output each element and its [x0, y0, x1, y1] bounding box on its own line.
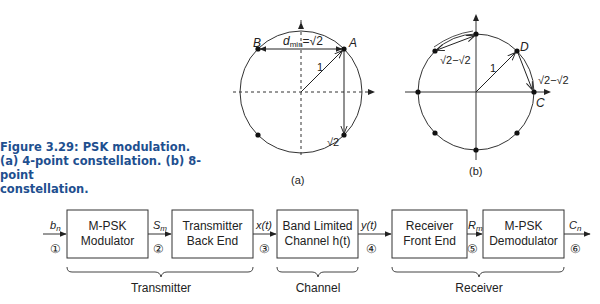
svg-text:Back End: Back End — [187, 234, 238, 248]
brace-receiver — [392, 267, 564, 277]
signal-sm: Sm — [153, 219, 167, 233]
constellation-b: D C 1 √2−√2 √2−√2 (b) — [405, 14, 569, 177]
brace-channel — [277, 267, 358, 277]
svg-text:Band Limited: Band Limited — [282, 219, 352, 233]
signal-rm: Rm — [468, 219, 483, 233]
radius-label-b: 1 — [490, 62, 496, 74]
node-4: ④ — [366, 242, 377, 256]
vertical-distance-label: √2 — [327, 136, 339, 148]
node-6: ⑥ — [570, 242, 581, 256]
node-3: ③ — [259, 242, 270, 256]
svg-text:Modulator: Modulator — [81, 234, 134, 248]
radius-label: 1 — [317, 61, 323, 73]
label-D: D — [520, 40, 529, 54]
subfigure-label-a: (a) — [291, 174, 304, 186]
block-receiver-front-end: Receiver Front End — [392, 210, 467, 258]
point-lower-left — [432, 130, 437, 135]
brace-transmitter — [67, 267, 253, 277]
point-lower-right — [514, 130, 519, 135]
dmin-label: dmin=√2 — [283, 34, 323, 49]
signal-cn: Cn — [569, 219, 582, 233]
svg-text:Demodulator: Demodulator — [489, 234, 558, 248]
axis-arrow-up-icon — [298, 22, 304, 29]
signal-bn: bn — [50, 219, 61, 233]
block-mpsk-modulator: M-PSK Modulator — [67, 210, 148, 258]
point-left — [415, 89, 420, 94]
node-2: ② — [153, 242, 164, 256]
constellation-a: B A dmin=√2 1 √2 (a) — [233, 20, 375, 186]
node-1: ① — [50, 242, 61, 256]
point-D — [514, 48, 519, 53]
point-C-a — [255, 132, 260, 137]
group-label-transmitter: Transmitter — [131, 281, 191, 295]
block-diagram: M-PSK Modulator Transmitter Back End Ban… — [43, 210, 590, 295]
block-transmitter-back-end: Transmitter Back End — [172, 210, 253, 258]
svg-text:M-PSK: M-PSK — [88, 219, 126, 233]
label-B: B — [253, 36, 261, 50]
group-label-channel: Channel — [296, 281, 341, 295]
svg-text:Transmitter: Transmitter — [182, 219, 242, 233]
point-C — [531, 89, 536, 94]
axis-arrow-right-icon — [368, 89, 375, 95]
group-label-receiver: Receiver — [455, 281, 502, 295]
point-D-a — [341, 132, 346, 137]
point-A — [341, 46, 346, 51]
label-C: C — [536, 96, 545, 110]
distance-label-upper: √2−√2 — [440, 54, 471, 66]
point-upper-left — [432, 48, 437, 53]
label-A: A — [348, 36, 357, 50]
point-bottom — [473, 147, 478, 152]
axis-arrow-right-b-icon — [544, 89, 551, 95]
node-5: ⑤ — [467, 242, 478, 256]
signal-yt: y(t) — [360, 219, 377, 231]
point-top — [473, 31, 478, 36]
svg-text:Front End: Front End — [403, 234, 456, 248]
block-band-limited-channel: Band Limited Channel h(t) — [277, 210, 358, 258]
axis-arrow-up-b-icon — [473, 14, 479, 21]
block-mpsk-demodulator: M-PSK Demodulator — [483, 210, 564, 258]
signal-xt: x(t) — [255, 219, 272, 231]
distance-label-right: √2−√2 — [538, 74, 569, 86]
svg-text:Channel h(t): Channel h(t) — [284, 234, 350, 248]
figure-canvas: B A dmin=√2 1 √2 (a) D C 1 √2−√2 √2−√2 (… — [0, 0, 600, 304]
svg-text:M-PSK: M-PSK — [504, 219, 542, 233]
subfigure-label-b: (b) — [469, 165, 482, 177]
svg-text:Receiver: Receiver — [406, 219, 453, 233]
